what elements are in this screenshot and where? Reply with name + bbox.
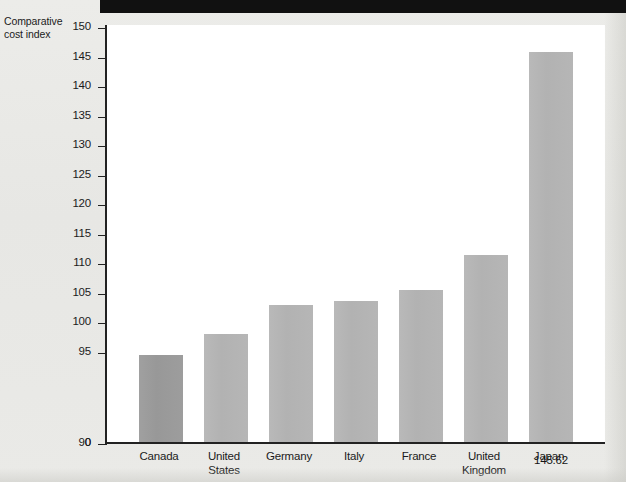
- chart-plot-area: 94.1697.72102.66103.37105.21111.25145.62…: [105, 25, 605, 444]
- y-axis-tick-label: 140: [51, 79, 91, 91]
- y-axis-tick-label: 125: [51, 168, 91, 180]
- y-axis-tick: [98, 323, 107, 324]
- bar-canada[interactable]: [139, 355, 183, 442]
- y-axis-tick: [98, 28, 107, 29]
- y-axis-tick: [98, 205, 107, 206]
- y-axis-tick-label: 95: [51, 345, 91, 357]
- bar-italy[interactable]: [334, 301, 378, 442]
- y-axis-tick: [98, 117, 107, 118]
- y-axis-tick-label: 105: [51, 286, 91, 298]
- bar-united-states[interactable]: [204, 334, 248, 442]
- y-axis-tick-label: 145: [51, 50, 91, 62]
- x-axis-label-japan: Japan: [503, 449, 595, 463]
- paper-edge-bottom: [0, 468, 626, 482]
- y-axis-tick-label: 100: [51, 315, 91, 327]
- bar-france[interactable]: [399, 290, 443, 442]
- y-axis-tick: [98, 353, 107, 354]
- bar-germany[interactable]: [269, 305, 313, 442]
- bars-layer: 94.1697.72102.66103.37105.21111.25145.62: [107, 25, 605, 442]
- page-header-band: [100, 0, 626, 13]
- y-axis-tick-label: 110: [51, 256, 91, 268]
- y-axis-tick-label: 115: [51, 227, 91, 239]
- x-axis-label-line: Japan: [503, 449, 595, 463]
- y-axis-tick: [98, 294, 107, 295]
- bar-united-kingdom[interactable]: [464, 255, 508, 442]
- paper-edge-right: [604, 13, 626, 482]
- y-axis-tick-label: 135: [51, 109, 91, 121]
- y-axis-tick: [98, 235, 107, 236]
- bar-japan[interactable]: [529, 52, 573, 442]
- y-axis-tick: [98, 444, 107, 445]
- y-axis-tick: [98, 87, 107, 88]
- y-axis-tick: [98, 176, 107, 177]
- y-axis-tick: [98, 146, 107, 147]
- y-axis-tick-label: 150: [51, 20, 91, 32]
- y-axis-tick-label: 130: [51, 138, 91, 150]
- y-axis-tick: [98, 58, 107, 59]
- y-axis-tick: [98, 264, 107, 265]
- y-axis-tick-label: 120: [51, 197, 91, 209]
- y-axis-tick-label: 0: [51, 436, 91, 448]
